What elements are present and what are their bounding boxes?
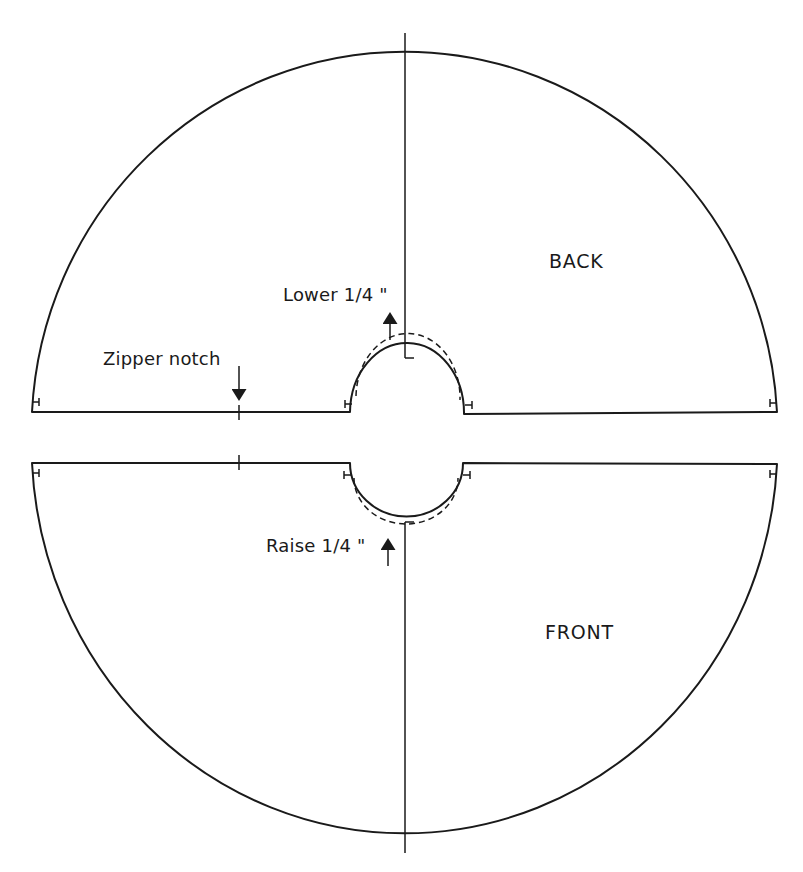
seam-allowance-ticks xyxy=(32,398,777,479)
raise-label: Raise 1/4 " xyxy=(266,537,366,555)
pattern-diagram xyxy=(0,0,803,872)
front-piece-label: FRONT xyxy=(545,623,614,642)
zipper-notch-label: Zipper notch xyxy=(103,350,221,368)
lower-label: Lower 1/4 " xyxy=(283,286,388,304)
back-piece-label: BACK xyxy=(549,252,604,271)
